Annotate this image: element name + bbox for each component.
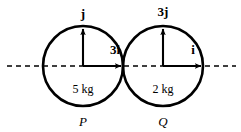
label-vertical-vector-q: 3j [158,4,169,19]
label-horizontal-vector-p: 3i [110,42,121,57]
physics-collision-diagram: j 3i 5 kg P 3j i 2 kg Q [0,0,241,132]
label-horizontal-vector-q: i [191,42,195,57]
label-mass-p: 5 kg [73,82,94,96]
label-body-q: Q [158,114,168,129]
label-body-p: P [78,114,87,129]
label-mass-q: 2 kg [153,82,174,96]
label-vertical-vector-p: j [80,6,85,21]
